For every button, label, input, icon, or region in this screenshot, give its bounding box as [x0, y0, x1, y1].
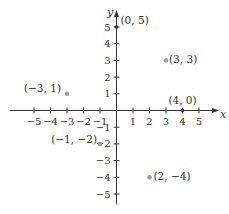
x-tick-label: −4 — [43, 116, 58, 127]
data-point — [65, 92, 69, 96]
x-tick-label: −2 — [76, 116, 91, 127]
data-point — [181, 109, 185, 113]
x-tick-label: 4 — [179, 116, 185, 127]
x-arrow-icon — [212, 108, 219, 113]
point-label: (3, 3) — [169, 53, 197, 65]
x-tick-label: 3 — [163, 116, 169, 127]
coordinate-plane: −5−4−3−2−112345−5−4−3−2−112345 (0, 5)(3,… — [0, 0, 229, 214]
data-point — [164, 58, 168, 62]
data-points: (0, 5)(3, 3)(−3, 1)(4, 0)(−1, −2)(2, −4) — [24, 14, 197, 182]
point-label: (2, −4) — [154, 170, 191, 182]
y-tick-label: −3 — [96, 155, 111, 166]
y-tick-label: 1 — [104, 88, 110, 99]
y-tick-label: −5 — [96, 189, 111, 200]
x-tick-label: −5 — [27, 116, 42, 127]
point-label: (4, 0) — [168, 94, 196, 106]
y-tick-label: 4 — [104, 38, 110, 49]
point-label: (−1, −2) — [51, 133, 97, 145]
x-axis-label: x — [220, 108, 227, 121]
y-tick-label: 3 — [104, 55, 110, 66]
data-point — [147, 175, 151, 179]
y-tick-label: 5 — [104, 22, 110, 33]
data-point — [115, 25, 119, 29]
x-tick-label: −3 — [60, 116, 75, 127]
y-tick-label: −4 — [96, 172, 111, 183]
data-point — [98, 142, 102, 146]
point-label: (−3, 1) — [24, 82, 61, 94]
x-tick-label: 5 — [196, 116, 202, 127]
x-tick-label: 2 — [146, 116, 152, 127]
y-tick-label: −1 — [96, 122, 111, 133]
x-tick-label: 1 — [130, 116, 136, 127]
y-tick-label: 2 — [104, 72, 110, 83]
y-axis-label: y — [106, 6, 114, 19]
y-arrow-icon — [114, 10, 119, 17]
point-label: (0, 5) — [121, 14, 149, 26]
